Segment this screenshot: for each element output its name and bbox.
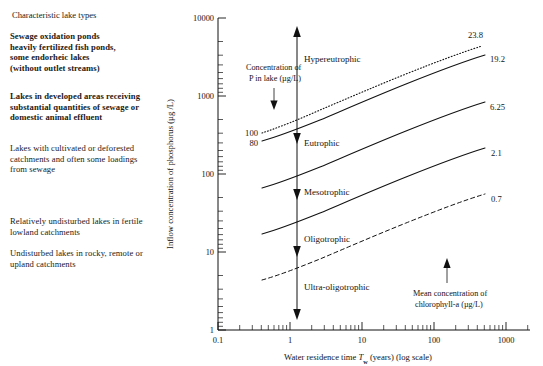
curve-right-label-2.1: 2.1 [491,148,502,158]
y-axis-minor-ticks [218,42,223,327]
curve-p100-chl23.8 [262,46,482,133]
trophic-label-mesotrophic: Mesotrophic [304,187,350,197]
curve-chl0.7 [262,194,485,280]
chart-svg: 10000 1000 100 10 1 [150,0,543,366]
figure-root: Characteristic lake types Sewage oxidati… [0,0,543,366]
x-tick-label-10: 10 [358,336,366,345]
x-axis-title-pre: Water residence time [284,352,358,362]
x-axis-title-post: (years) (log scale) [368,352,432,362]
down-arrow-icon [270,88,277,110]
y-axis-title: Inflow concentration of phosphorus (µg /… [165,99,175,249]
y-tick-label-10000: 10000 [193,14,214,23]
up-arrow-icon [443,258,450,283]
x-axis-title: Water residence time Tw (years) (log sca… [284,352,432,365]
curve-left-label-80: 80 [249,138,258,148]
trophic-label-eutrophic: Eutrophic [304,138,340,148]
curve-right-label-23.8: 23.8 [468,30,483,40]
trophic-label-oligotrophic: Oligotrophic [304,234,350,244]
y-tick-label-1: 1 [210,326,214,335]
y-tick-label-10: 10 [206,248,214,257]
legend-heading: Characteristic lake types [12,10,96,20]
curve-right-label-6.25: 6.25 [490,102,505,112]
trophic-state-chart: 10000 1000 100 10 1 [150,0,543,366]
left-annotation-line-1: Concentration of [246,63,302,72]
x-tick-label-1: 1 [288,336,292,345]
curve-right-label-0.7: 0.7 [491,194,502,204]
right-annotation-line-1: Mean concentration of [413,289,487,298]
x-tick-label-0.1: 0.1 [213,336,223,345]
y-tick-label-1000: 1000 [197,92,214,101]
right-annotation-line-2: chlorophyll-a (µg/L) [415,300,483,309]
curve-chl6.25 [262,102,485,188]
right-annotation-group: Mean concentration of chlorophyll-a (µg/… [413,258,487,309]
curve-left-label-100: 100 [245,128,258,138]
x-axis-minor-ticks [240,325,528,330]
left-annotation-line-2: P in lake (µg/L) [249,74,301,83]
curve-right-label-19.2: 19.2 [490,54,505,64]
trophic-label-hypereutrophic: Hypereutrophic [304,54,360,64]
y-tick-label-100: 100 [201,170,214,179]
left-annotation-group: Concentration of P in lake (µg/L) [246,63,302,110]
x-tick-label-1000: 1000 [498,336,515,345]
trophic-label-ultra-oligotrophic: Ultra-oligotrophic [304,282,369,292]
x-tick-label-100: 100 [428,336,441,345]
